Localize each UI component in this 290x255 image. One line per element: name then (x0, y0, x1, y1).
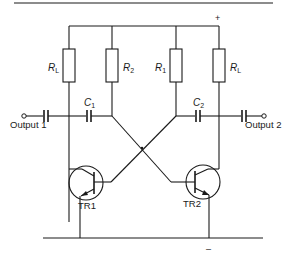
resistor-r1: R1 (155, 26, 182, 116)
capacitor-c2: C2 (176, 97, 219, 122)
svg-text:R1: R1 (155, 62, 166, 74)
output-1-terminal (22, 114, 26, 118)
output-2-label: Output 2 (245, 119, 281, 130)
capacitor-c1: C1 (69, 97, 112, 122)
tr1-label: TR1 (78, 200, 96, 211)
tr2-label: TR2 (183, 198, 201, 209)
output-2-terminal (262, 114, 266, 118)
positive-sign: + (215, 13, 220, 23)
resistor-label: R (155, 62, 162, 73)
svg-text:RL: RL (48, 62, 59, 74)
svg-text:RL: RL (230, 62, 241, 74)
resistor-rl-right: RL (213, 26, 241, 169)
resistor-rl-left: RL (48, 26, 75, 222)
cross-coupling (111, 116, 176, 182)
transistor-tr1: TR1 (69, 166, 111, 238)
output-1-label: Output 1 (10, 119, 46, 130)
transistor-tr2: TR2 (171, 165, 220, 238)
svg-text:R2: R2 (123, 62, 134, 74)
svg-text:C1: C1 (84, 97, 95, 109)
output-1: Output 1 (10, 110, 69, 130)
resistor-label: R (48, 62, 55, 73)
output-2: Output 2 (219, 110, 281, 130)
negative-rail: – (43, 238, 263, 254)
resistor-r2: R2 (106, 26, 134, 116)
svg-text:C2: C2 (193, 97, 204, 109)
negative-sign: – (206, 244, 211, 254)
positive-rail: + (69, 13, 220, 26)
resistor-label: R (123, 62, 130, 73)
circuit-diagram: + RL R2 R1 RL Output 1 (0, 0, 290, 255)
resistor-label: R (230, 62, 237, 73)
